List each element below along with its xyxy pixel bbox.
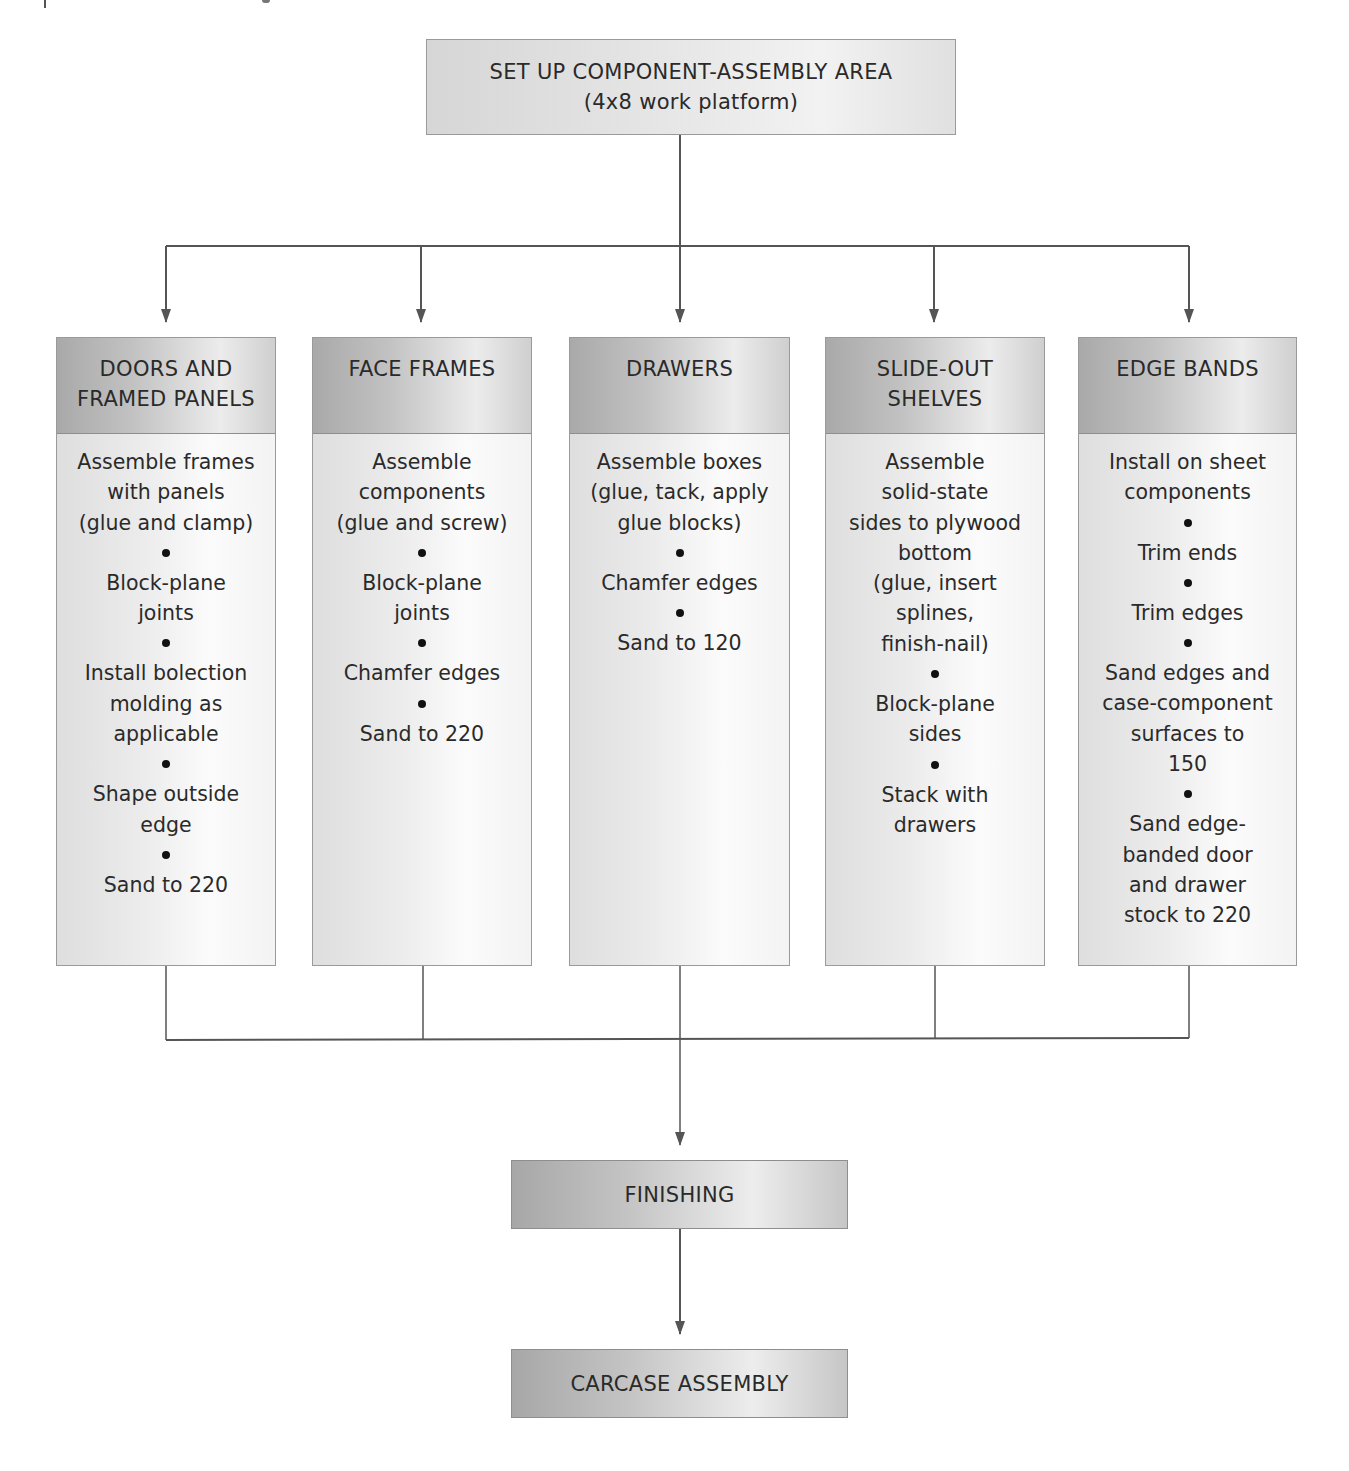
branch-edge-bands: EDGE BANDS Install on sheet components T… — [1078, 337, 1297, 966]
bullet-icon — [418, 549, 426, 557]
branch-header: DRAWERS — [570, 338, 789, 434]
step-text: Block-plane joints — [106, 568, 226, 629]
branch-title-line: SLIDE-OUT — [877, 354, 993, 384]
carcase-assembly-node: CARCASE ASSEMBLY — [511, 1349, 848, 1418]
step-text: Sand edges and case-component surfaces t… — [1102, 658, 1273, 779]
step-text: Chamfer edges — [344, 658, 501, 688]
step-text: Chamfer edges — [601, 568, 758, 598]
step-text: Assemble boxes (glue, tack, apply glue b… — [590, 447, 769, 538]
branch-title-line: FACE FRAMES — [349, 354, 496, 384]
branch-title-line: DOORS AND — [100, 354, 233, 384]
bullet-icon — [162, 639, 170, 647]
step-text: Block-plane sides — [875, 689, 995, 750]
step-text: Sand edge- banded door and drawer stock … — [1122, 809, 1252, 930]
branch-doors-and-framed-panels: DOORS AND FRAMED PANELS Assemble frames … — [56, 337, 276, 966]
step-text: Sand to 120 — [617, 628, 741, 658]
bullet-icon — [931, 670, 939, 678]
step-text: Sand to 220 — [360, 719, 484, 749]
bullet-icon — [418, 639, 426, 647]
branch-steps: Install on sheet components Trim ends Tr… — [1079, 434, 1296, 965]
start-node-setup-area: SET UP COMPONENT-ASSEMBLY AREA (4x8 work… — [426, 39, 956, 135]
bullet-icon — [1184, 790, 1192, 798]
branch-title-line: FRAMED PANELS — [77, 384, 255, 414]
branch-title-line: SHELVES — [888, 384, 983, 414]
bullet-icon — [1184, 519, 1192, 527]
branch-steps: Assemble boxes (glue, tack, apply glue b… — [570, 434, 789, 965]
step-text: Trim edges — [1131, 598, 1243, 628]
bullet-icon — [162, 851, 170, 859]
bullet-icon — [1184, 579, 1192, 587]
step-text: Assemble frames with panels (glue and cl… — [77, 447, 254, 538]
step-text: Assemble components (glue and screw) — [336, 447, 507, 538]
step-text: Sand to 220 — [104, 870, 228, 900]
step-text: Block-plane joints — [362, 568, 482, 629]
branch-face-frames: FACE FRAMES Assemble components (glue an… — [312, 337, 532, 966]
bullet-icon — [676, 609, 684, 617]
branch-title-line: EDGE BANDS — [1116, 354, 1259, 384]
step-text: Trim ends — [1138, 538, 1237, 568]
step-text: Install bolection molding as applicable — [85, 658, 248, 749]
branch-header: SLIDE-OUT SHELVES — [826, 338, 1044, 434]
step-text: Assemble solid-state sides to plywood bo… — [849, 447, 1021, 659]
bullet-icon — [931, 761, 939, 769]
step-text: Install on sheet components — [1109, 447, 1266, 508]
page-edge-mark — [44, 0, 46, 8]
step-text: Stack with drawers — [882, 780, 989, 841]
carcase-assembly-node-title: CARCASE ASSEMBLY — [570, 1372, 788, 1396]
bullet-icon — [418, 700, 426, 708]
bullet-icon — [676, 549, 684, 557]
branch-drawers: DRAWERS Assemble boxes (glue, tack, appl… — [569, 337, 790, 966]
step-text: Shape outside edge — [93, 779, 239, 840]
finishing-node: FINISHING — [511, 1160, 848, 1229]
branch-header: DOORS AND FRAMED PANELS — [57, 338, 275, 434]
branch-header: EDGE BANDS — [1079, 338, 1296, 434]
bullet-icon — [162, 760, 170, 768]
page-edge-mark — [262, 0, 270, 3]
bullet-icon — [162, 549, 170, 557]
start-node-subtitle: (4x8 work platform) — [584, 87, 799, 117]
branch-steps: Assemble components (glue and screw) Blo… — [313, 434, 531, 965]
branch-steps: Assemble frames with panels (glue and cl… — [57, 434, 275, 965]
branch-steps: Assemble solid-state sides to plywood bo… — [826, 434, 1044, 965]
bullet-icon — [1184, 639, 1192, 647]
branch-title-line: DRAWERS — [626, 354, 733, 384]
start-node-title: SET UP COMPONENT-ASSEMBLY AREA — [490, 57, 893, 87]
branch-header: FACE FRAMES — [313, 338, 531, 434]
branch-slide-out-shelves: SLIDE-OUT SHELVES Assemble solid-state s… — [825, 337, 1045, 966]
finishing-node-title: FINISHING — [624, 1183, 734, 1207]
